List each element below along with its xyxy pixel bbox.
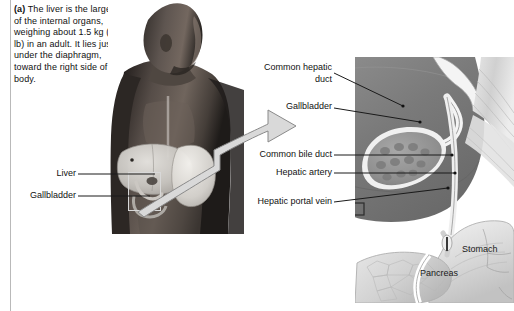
illustration-label-common-hepatic-duct-line1: Common hepatic [224,62,332,73]
illustration-label-common-hepatic-duct-line2: duct [224,74,332,85]
photo-label-liver: Liver [14,168,76,179]
illustration-label-gallbladder: Gallbladder [224,101,332,112]
photo-label-gallbladder: Gallbladder [4,190,76,201]
illustration-label-common-bile-duct: Common bile duct [212,149,332,160]
illustration-label-hepatic-artery: Hepatic artery [212,167,332,178]
figure-liver-gallbladder: (a) The liver is the largest of the inte… [0,0,514,311]
illustration-label-hepatic-portal-vein: Hepatic portal vein [208,196,332,207]
